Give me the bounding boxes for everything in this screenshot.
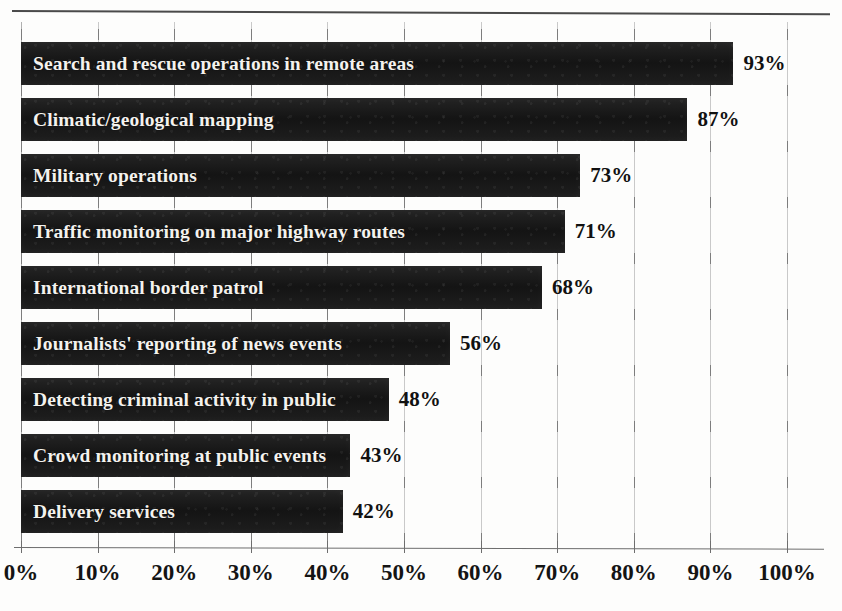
bar-category-label: Delivery services <box>33 490 175 533</box>
tick-stub <box>710 85 711 96</box>
bar-3[interactable]: Military operations <box>21 154 580 197</box>
x-axis-label-80pct: 80% <box>611 560 657 586</box>
tick-stub <box>327 29 328 40</box>
tick-stub <box>557 421 558 432</box>
tick-stub <box>710 253 711 264</box>
tick-stub <box>710 365 711 376</box>
tick-stub <box>787 421 788 432</box>
tick-stub <box>481 365 482 376</box>
x-axis-label-60pct: 60% <box>458 560 504 586</box>
bar-category-label: Traffic monitoring on major highway rout… <box>33 210 405 253</box>
bar-7[interactable]: Detecting criminal activity in public <box>21 378 389 421</box>
tick-stub <box>174 29 175 40</box>
x-axis-label-30pct: 30% <box>228 560 274 586</box>
tick-stub <box>710 477 711 488</box>
x-axis-label-50pct: 50% <box>381 560 427 586</box>
tick-stub <box>481 197 482 208</box>
tick-stub <box>174 85 175 96</box>
bar-6[interactable]: Journalists' reporting of news events <box>21 322 450 365</box>
bar-row[interactable]: International border patrol68% <box>0 266 842 309</box>
tick-stub <box>634 365 635 376</box>
tick-stub <box>327 477 328 488</box>
tick-stub <box>634 141 635 152</box>
x-axis-tick-50pct <box>404 541 405 553</box>
tick-stub <box>98 85 99 96</box>
bar-4[interactable]: Traffic monitoring on major highway rout… <box>21 210 565 253</box>
tick-stub <box>481 309 482 320</box>
tick-stub <box>327 197 328 208</box>
tick-stub <box>251 141 252 152</box>
bar-5[interactable]: International border patrol <box>21 266 542 309</box>
tick-stub <box>787 365 788 376</box>
tick-stub <box>98 421 99 432</box>
tick-stub <box>251 85 252 96</box>
tick-stub <box>557 141 558 152</box>
tick-stub <box>481 29 482 40</box>
bar-9[interactable]: Delivery services <box>21 490 343 533</box>
tick-stub <box>21 309 22 320</box>
x-axis-label-10pct: 10% <box>75 560 121 586</box>
tick-stub <box>98 477 99 488</box>
x-axis-tick-70pct <box>557 541 558 553</box>
tick-stub <box>557 197 558 208</box>
tick-stub <box>634 309 635 320</box>
bar-2[interactable]: Climatic/geological mapping <box>21 98 687 141</box>
x-axis-tick-40pct <box>327 541 328 553</box>
tick-stub <box>21 197 22 208</box>
x-axis-label-40pct: 40% <box>304 560 350 586</box>
bar-row[interactable]: Delivery services42% <box>0 490 842 533</box>
tick-stub <box>404 29 405 40</box>
bar-row[interactable]: Crowd monitoring at public events43% <box>0 434 842 477</box>
tick-stub <box>787 309 788 320</box>
tick-stub <box>481 253 482 264</box>
bar-category-label: Search and rescue operations in remote a… <box>33 42 414 85</box>
tick-stub <box>327 365 328 376</box>
bar-row[interactable]: Detecting criminal activity in public48% <box>0 378 842 421</box>
tick-stub <box>634 421 635 432</box>
tick-stub <box>634 85 635 96</box>
tick-stub <box>481 477 482 488</box>
tick-stub <box>404 197 405 208</box>
tick-stub <box>481 141 482 152</box>
tick-stub <box>557 253 558 264</box>
tick-stub <box>710 141 711 152</box>
tick-stub <box>404 141 405 152</box>
bar-category-label: Military operations <box>33 154 197 197</box>
tick-stub <box>251 309 252 320</box>
x-axis-label-100pct: 100% <box>758 560 816 586</box>
bar-row[interactable]: Traffic monitoring on major highway rout… <box>0 210 842 253</box>
tick-stub <box>251 477 252 488</box>
tick-stub <box>404 421 405 432</box>
tick-stub <box>557 477 558 488</box>
tick-stub <box>404 309 405 320</box>
bar-8[interactable]: Crowd monitoring at public events <box>21 434 350 477</box>
x-axis-tick-60pct <box>481 541 482 553</box>
bar-value-label: 42% <box>353 490 395 533</box>
tick-stub <box>251 253 252 264</box>
bar-row[interactable]: Journalists' reporting of news events56% <box>0 322 842 365</box>
tick-stub <box>787 29 788 40</box>
bar-category-label: Crowd monitoring at public events <box>33 434 326 477</box>
bar-value-label: 43% <box>360 434 402 477</box>
bar-category-label: International border patrol <box>33 266 264 309</box>
x-axis-tick-80pct <box>634 541 635 553</box>
tick-stub <box>174 141 175 152</box>
x-axis-tick-20pct <box>174 541 175 553</box>
bar-row[interactable]: Search and rescue operations in remote a… <box>0 42 842 85</box>
tick-stub <box>21 421 22 432</box>
tick-stub <box>174 421 175 432</box>
bar-row[interactable]: Military operations73% <box>0 154 842 197</box>
x-axis-tick-100pct <box>787 541 788 553</box>
tick-stub <box>327 253 328 264</box>
tick-stub <box>557 309 558 320</box>
tick-stub <box>174 309 175 320</box>
tick-stub <box>404 477 405 488</box>
tick-stub <box>327 309 328 320</box>
tick-stub <box>98 365 99 376</box>
tick-stub <box>174 197 175 208</box>
bar-value-label: 93% <box>743 42 785 85</box>
bar-1[interactable]: Search and rescue operations in remote a… <box>21 42 733 85</box>
tick-stub <box>251 29 252 40</box>
tick-stub <box>787 477 788 488</box>
bar-row[interactable]: Climatic/geological mapping87% <box>0 98 842 141</box>
